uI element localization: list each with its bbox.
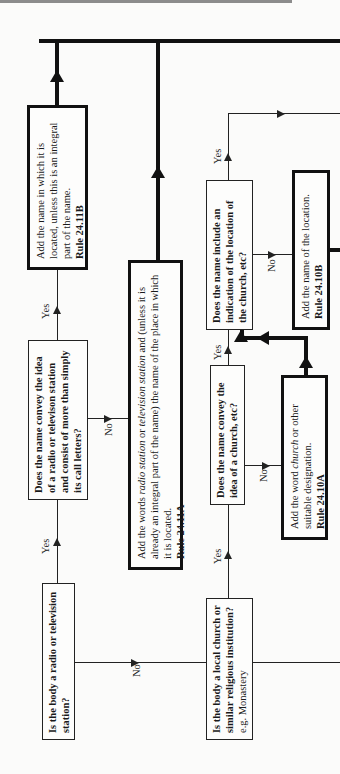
node-text-italic: church bbox=[289, 440, 300, 469]
arrow-icon bbox=[234, 330, 248, 342]
node-q-radio: Is the body a radio or television statio… bbox=[42, 583, 75, 740]
node-text: Does the name convey the idea of a radio… bbox=[33, 351, 83, 493]
arrow-icon bbox=[277, 110, 285, 118]
arrow-icon bbox=[53, 538, 61, 546]
rule-reference: Rule 24.11A bbox=[174, 271, 187, 559]
node-text: Add the name in which it is located, unl… bbox=[35, 123, 72, 259]
arrow-icon bbox=[224, 153, 232, 161]
arrow-icon bbox=[224, 551, 232, 559]
node-q-radio-idea: Does the name convey the idea of a radio… bbox=[28, 340, 88, 500]
label-yes: Yes bbox=[40, 304, 51, 319]
node-text: Is the body a local church or similar re… bbox=[211, 606, 235, 733]
arrow-icon bbox=[257, 331, 269, 345]
arrow-icon bbox=[53, 306, 61, 314]
node-a-add-radio-words: Add the words radio station or televisio… bbox=[128, 260, 183, 570]
node-text-1: Add the words bbox=[136, 495, 147, 559]
node-text-italic-2: television station bbox=[136, 355, 147, 426]
label-yes: Yes bbox=[40, 539, 51, 554]
node-q-church-idea: Does the name convey the idea of a churc… bbox=[210, 365, 245, 505]
rule-reference: Rule 24.10A bbox=[314, 386, 327, 529]
node-note: e.g. Monastery bbox=[236, 605, 249, 733]
node-a-add-church-word: Add the word church or other suitable de… bbox=[281, 375, 328, 540]
node-text: Add the name of the location. bbox=[300, 194, 311, 319]
arrow-icon bbox=[224, 346, 232, 354]
arrow-icon bbox=[104, 415, 112, 423]
label-yes: Yes bbox=[212, 149, 223, 164]
arrow-icon bbox=[50, 70, 64, 82]
connector-radio-no bbox=[75, 662, 206, 663]
label-no: No bbox=[258, 469, 269, 482]
node-text-1: Add the word bbox=[289, 469, 300, 529]
node-q-church: Is the body a local church or similar re… bbox=[206, 598, 253, 740]
node-text: Does the name include an indication of t… bbox=[211, 201, 248, 324]
label-no: No bbox=[131, 664, 142, 677]
arrow-icon bbox=[151, 166, 165, 178]
node-text: Is the body a radio or television statio… bbox=[47, 592, 71, 733]
rule-reference: Rule 24.11B bbox=[73, 116, 86, 259]
label-no: No bbox=[103, 423, 114, 436]
label-yes: Yes bbox=[212, 549, 223, 564]
arrow-icon bbox=[299, 356, 313, 368]
node-a-add-name-located: Add the name in which it is located, unl… bbox=[27, 105, 88, 270]
connector-location-yes bbox=[228, 114, 229, 180]
node-q-location: Does the name include an indication of t… bbox=[206, 180, 253, 330]
connector-location-out bbox=[330, 249, 340, 253]
connector-church-no bbox=[253, 662, 340, 663]
node-text-italic-1: radio station bbox=[136, 441, 147, 495]
node-text-2: or bbox=[136, 427, 147, 441]
connector-church-word-out-2 bbox=[240, 337, 308, 341]
connector-exit-rail bbox=[39, 40, 340, 44]
rule-reference: Rule 24.10B bbox=[312, 181, 325, 319]
node-text: Does the name convey the idea of a churc… bbox=[215, 383, 239, 498]
connector-radio-words-out bbox=[156, 39, 160, 260]
flowchart-canvas: Yes Yes No No Yes Yes No Yes No bbox=[0, 0, 340, 774]
node-a-add-location: Add the name of the location. Rule 24.10… bbox=[292, 170, 330, 330]
label-yes: Yes bbox=[212, 345, 223, 360]
label-no: No bbox=[266, 259, 277, 272]
arrow-icon bbox=[268, 251, 276, 259]
connector-radio-idea-yes bbox=[57, 270, 58, 340]
